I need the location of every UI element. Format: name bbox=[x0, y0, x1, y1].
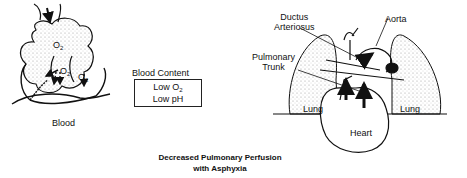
ductus-arteriosus-label: Ductus Arteriosus bbox=[274, 12, 315, 32]
heart-label: Heart bbox=[350, 128, 372, 138]
aorta-label: Aorta bbox=[385, 14, 407, 24]
figure-caption: Decreased Pulmonary Perfusion with Asphy… bbox=[120, 152, 320, 174]
right-lung-label: Lung bbox=[400, 104, 420, 114]
alveolus-o2-label-middle: O2 bbox=[60, 66, 70, 76]
blood-label: Blood bbox=[52, 118, 75, 128]
blood-content-low-o2: Low O2 bbox=[135, 81, 201, 93]
blood-content-heading: Blood Content bbox=[132, 68, 189, 78]
left-lung-label: Lung bbox=[303, 104, 323, 114]
pulmonary-trunk-label: Pulmonary Trunk bbox=[252, 52, 295, 72]
blood-content-box: Low O2 Low pH bbox=[134, 79, 202, 107]
blood-content-low-ph: Low pH bbox=[135, 93, 201, 105]
alveolus-o2-label-right: O2 bbox=[78, 72, 88, 82]
alveolus-o2-label-top: O2 bbox=[53, 40, 63, 50]
